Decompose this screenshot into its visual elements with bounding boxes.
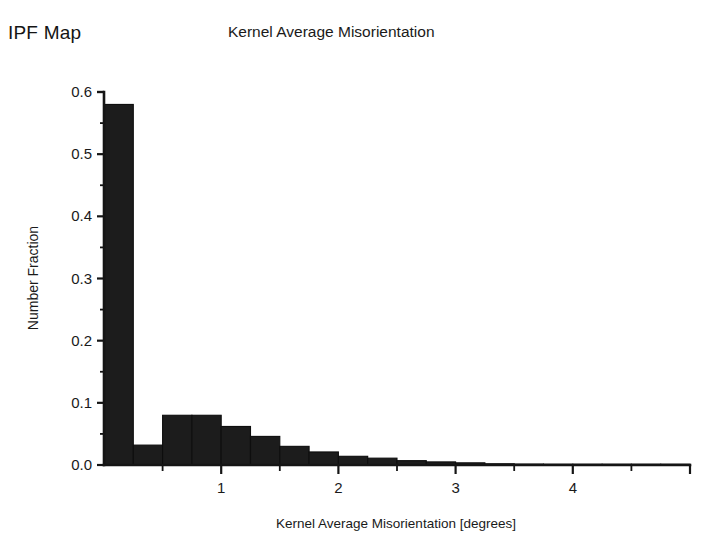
histogram-bar (280, 446, 309, 465)
y-tick-label: 0.0 (71, 456, 92, 473)
bar-series (104, 104, 690, 465)
x-axis-title: Kernel Average Misorientation [degrees] (276, 516, 516, 531)
histogram-bar (309, 452, 338, 465)
chart-plot-area: 0.00.10.20.30.40.50.61234 Kernel Average… (0, 0, 723, 548)
y-tick-label: 0.5 (71, 145, 92, 162)
histogram-svg: 0.00.10.20.30.40.50.61234 Kernel Average… (0, 0, 723, 548)
histogram-bar (133, 445, 162, 465)
histogram-bar (192, 415, 221, 465)
y-tick-label: 0.1 (71, 394, 92, 411)
histogram-bar (338, 456, 367, 465)
tick-labels: 0.00.10.20.30.40.50.61234 (71, 83, 577, 496)
histogram-bar (163, 415, 192, 465)
y-axis-title: Number Fraction (25, 226, 41, 330)
histogram-bar (221, 426, 250, 465)
y-tick-label: 0.3 (71, 270, 92, 287)
histogram-bar (251, 436, 280, 465)
y-tick-label: 0.4 (71, 207, 92, 224)
x-tick-label: 2 (334, 479, 342, 496)
x-tick-label: 1 (217, 479, 225, 496)
x-tick-label: 3 (451, 479, 459, 496)
y-tick-label: 0.2 (71, 332, 92, 349)
y-tick-label: 0.6 (71, 83, 92, 100)
histogram-bar (104, 104, 133, 465)
x-tick-label: 4 (569, 479, 577, 496)
